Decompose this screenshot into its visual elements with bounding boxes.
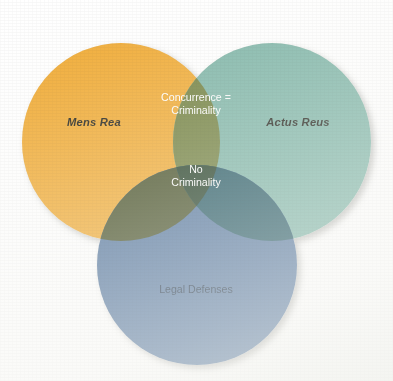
- venn-diagram: Mens Rea Actus Reus Concurrence = Crimin…: [0, 0, 393, 381]
- venn-diagram-canvas: Mens Rea Actus Reus Concurrence = Crimin…: [0, 0, 393, 381]
